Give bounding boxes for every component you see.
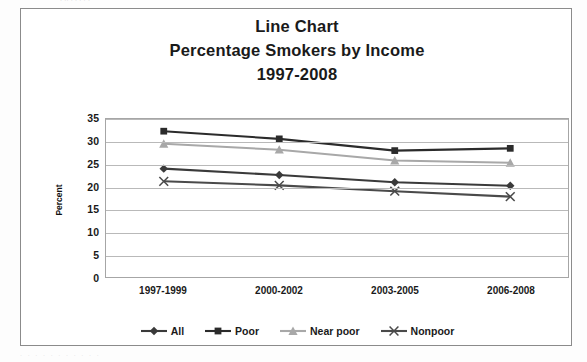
chart-page: · ·· · · · · · Line Chart Percentage Smo… (0, 0, 587, 362)
y-axis-tick-label: 15 (69, 203, 99, 215)
legend-item-label: All (171, 325, 184, 337)
chart-title-line-3: 1997-2008 (21, 62, 573, 86)
x-axis-tick-label: 2006-2008 (487, 285, 535, 296)
chart-title-line-2: Percentage Smokers by Income (21, 38, 573, 62)
data-point-marker (506, 182, 514, 190)
legend-item-poor[interactable]: Poor (204, 325, 259, 337)
series-all (160, 164, 515, 190)
diamond-marker-icon (140, 325, 168, 337)
chart-legend: AllPoorNear poorNonpoor (21, 325, 573, 337)
gridline (106, 119, 568, 120)
triangle-marker-icon (279, 325, 307, 337)
top-cut-text-strip: · ·· · · · · · (0, 0, 587, 7)
data-point-marker (507, 145, 514, 152)
series-nonpoor (159, 177, 514, 201)
x-axis-tick-label: 2003-2005 (371, 285, 419, 296)
y-axis-tick-label: 25 (69, 158, 99, 170)
legend-item-label: Poor (235, 325, 259, 337)
legend-item-label: Nonpoor (411, 325, 455, 337)
plot-area (105, 118, 569, 278)
bottom-cut-text-strip: · · · · · · · · · · · (0, 350, 587, 362)
y-axis-title: Percent (54, 184, 64, 215)
chart-title: Line Chart Percentage Smokers by Income … (21, 15, 573, 86)
data-point-marker (275, 171, 283, 179)
y-axis-tick-label: 35 (69, 112, 99, 124)
x-axis-tick-label: 1997-1999 (139, 285, 187, 296)
data-point-marker (160, 128, 167, 135)
legend-item-all[interactable]: All (140, 325, 184, 337)
gridline (106, 142, 568, 143)
gridline (106, 188, 568, 189)
legend-item-nonpoor[interactable]: Nonpoor (380, 325, 455, 337)
x-axis-tick-label: 2000-2002 (255, 285, 303, 296)
y-axis-tick-label: 30 (69, 135, 99, 147)
square-marker-icon (204, 325, 232, 337)
legend-item-label: Near poor (310, 325, 360, 337)
series-line (164, 144, 511, 163)
top-cut-text: · ·· · · · · · (60, 0, 90, 3)
data-point-marker (391, 178, 399, 186)
x-axis-tick-labels: 1997-19992000-20022003-20052006-2008 (105, 285, 569, 301)
y-axis-tick-label: 10 (69, 226, 99, 238)
gridline (106, 165, 568, 166)
gridline (106, 233, 568, 234)
chart-title-line-1: Line Chart (21, 15, 573, 38)
series-near-poor (159, 139, 515, 166)
legend-item-near-poor[interactable]: Near poor (279, 325, 360, 337)
y-axis-tick-label: 0 (69, 272, 99, 284)
gridline (106, 256, 568, 257)
x-marker-icon (380, 325, 408, 337)
data-point-marker (391, 147, 398, 154)
y-axis-tick-label: 20 (69, 181, 99, 193)
bottom-cut-text: · · · · · · · · · · · (20, 352, 101, 358)
y-axis-tick-labels: 05101520253035 (67, 118, 99, 278)
y-axis-tick-label: 5 (69, 249, 99, 261)
chart-frame: Line Chart Percentage Smokers by Income … (20, 8, 572, 346)
gridline (106, 210, 568, 211)
data-point-marker (160, 164, 168, 172)
